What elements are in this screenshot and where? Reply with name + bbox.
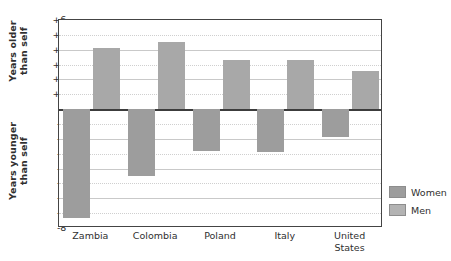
legend-item-men[interactable]: Men (389, 204, 447, 216)
bar-women-colombia (128, 109, 155, 176)
x-label-zambia: Zambia (54, 230, 126, 242)
gridline (59, 183, 381, 184)
x-label-united-states: United States (314, 230, 386, 253)
x-label-colombia: Colombia (119, 230, 191, 242)
gridline (59, 169, 381, 170)
gridline (59, 35, 381, 36)
bar-men-poland (223, 60, 250, 109)
legend: WomenMen (389, 186, 447, 222)
legend-label: Women (411, 187, 447, 198)
bar-women-italy (257, 109, 284, 152)
gridline (59, 139, 381, 140)
bar-men-zambia (93, 48, 120, 109)
bar-women-united-states (322, 109, 349, 137)
y-axis-title-lower: Years younger than self (7, 121, 29, 201)
legend-swatch-icon (389, 186, 406, 198)
plot-area (58, 19, 382, 227)
gridline (59, 154, 381, 155)
bar-men-italy (287, 60, 314, 109)
chart-container: Years older than self Years younger than… (0, 0, 451, 261)
gridline (59, 213, 381, 214)
x-label-italy: Italy (249, 230, 321, 242)
legend-label: Men (411, 205, 431, 216)
bar-men-colombia (158, 42, 185, 109)
legend-swatch-icon (389, 204, 406, 216)
bar-women-zambia (63, 109, 90, 217)
y-axis-title-upper: Years older than self (7, 15, 29, 87)
bar-men-united-states (352, 71, 379, 110)
legend-item-women[interactable]: Women (389, 186, 447, 198)
bar-women-poland (193, 109, 220, 151)
gridline (59, 198, 381, 199)
x-label-poland: Poland (184, 230, 256, 242)
